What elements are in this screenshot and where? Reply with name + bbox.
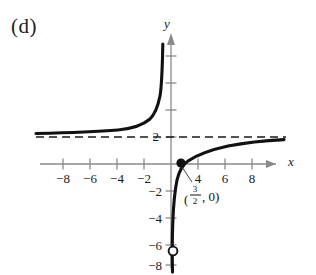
leader-line xyxy=(182,167,192,182)
graph-canvas: x y −8 −6 −4 −2 4 6 8 2 −2 −4 −6 −8 ( 3 … xyxy=(0,0,316,275)
x-tick-label: 6 xyxy=(222,171,229,186)
figure-panel: (d) xyxy=(0,0,316,275)
annotation-open-paren: ( xyxy=(184,192,188,207)
x-axis-label: x xyxy=(287,154,294,169)
x-tick-label: −4 xyxy=(110,171,124,186)
y-tick-label: 2 xyxy=(153,129,160,144)
curve-right-branch xyxy=(172,140,284,272)
x-tick-label: 8 xyxy=(249,171,256,186)
annotation-numerator: 3 xyxy=(193,184,198,194)
x-tick-label: −8 xyxy=(56,171,70,186)
curve-left-branch xyxy=(36,44,163,134)
intercept-point-marker xyxy=(176,158,185,167)
y-axis-label: y xyxy=(162,16,170,31)
annotation-denominator: 2 xyxy=(193,196,198,206)
y-tick-label: −6 xyxy=(148,238,162,253)
y-tick-label: −2 xyxy=(148,184,162,199)
y-tick-label: −4 xyxy=(148,211,162,226)
annotation-comma-zero: , 0) xyxy=(202,189,219,204)
intercept-annotation: ( 3 2 , 0) xyxy=(184,184,219,207)
hole-open-circle-marker xyxy=(169,247,178,256)
y-tick-label: −8 xyxy=(148,258,162,273)
x-tick-label: −6 xyxy=(83,171,97,186)
x-axis xyxy=(40,159,276,170)
